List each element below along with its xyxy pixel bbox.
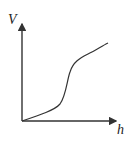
- sigmoid-curve-diagram: V h: [0, 0, 129, 141]
- x-axis-label: h: [117, 122, 124, 137]
- y-axis-label: V: [8, 12, 18, 27]
- sigmoid-curve: [22, 43, 108, 121]
